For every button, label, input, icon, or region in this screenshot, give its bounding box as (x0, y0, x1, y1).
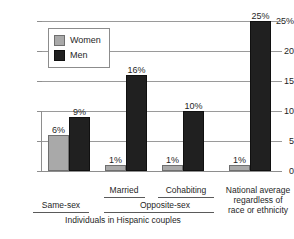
rule-same-sex (33, 212, 89, 213)
rule-cohabiting (158, 197, 214, 198)
legend-item-men: Men (54, 48, 104, 63)
national-average-line-3: race or ethnicity (222, 206, 294, 216)
bar-value-men-same-sex: 9% (73, 108, 86, 117)
bar-value-women-same-sex: 6% (52, 126, 65, 135)
group-label-same-sex: Same-sex (31, 201, 91, 211)
rule-opposite-sex (104, 212, 214, 213)
legend-label-men: Men (70, 51, 88, 60)
bar-value-men-national-average: 25% (251, 12, 269, 21)
bar-chart: 25% 20 15 10 5 0 6% 9% 1% (0, 0, 294, 239)
bar-men-same-sex: 9% (69, 117, 90, 171)
bar-women-married: 1% (105, 165, 126, 171)
group-label-national-average: National average regardless of race or e… (222, 186, 294, 215)
bar-women-same-sex: 6% (48, 135, 69, 171)
group-label-married: Married (98, 186, 150, 196)
group-label-cohabiting: Cohabiting (155, 186, 217, 196)
axis-baseline (42, 171, 282, 172)
bar-value-women-cohabiting: 1% (166, 156, 179, 165)
gridline-15 (42, 81, 282, 82)
bar-value-men-cohabiting: 10% (184, 102, 202, 111)
gridline-25 (42, 21, 282, 22)
legend: Women Men (48, 28, 110, 68)
axis-title-individuals-hispanic-couples: Individuals in Hispanic couples (28, 216, 218, 226)
bar-value-women-national-average: 1% (233, 156, 246, 165)
rule-married (104, 197, 145, 198)
men-swatch-icon (54, 50, 65, 61)
bar-women-national-average: 1% (229, 165, 250, 171)
group-label-opposite-sex: Opposite-sex (130, 201, 200, 211)
bar-value-women-married: 1% (109, 156, 122, 165)
bar-women-cohabiting: 1% (162, 165, 183, 171)
legend-label-women: Women (70, 36, 101, 45)
y-axis-spine (41, 111, 42, 171)
women-swatch-icon (54, 35, 65, 46)
legend-item-women: Women (54, 33, 104, 48)
bar-men-married: 16% (126, 75, 147, 171)
bar-men-national-average: 25% (250, 21, 271, 171)
bar-men-cohabiting: 10% (183, 111, 204, 171)
bar-value-men-married: 16% (127, 66, 145, 75)
